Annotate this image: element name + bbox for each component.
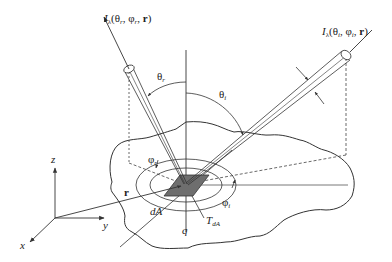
reflected-intensity-label: Iλ(θr, φr, r) <box>103 12 152 26</box>
theta-r-arc <box>148 82 186 96</box>
theta-i-arc <box>186 93 243 135</box>
incident-intensity-label: Iλ(θi, φi, r) <box>321 25 368 39</box>
beam-width-arrow-top <box>296 67 308 80</box>
dA-label: dA <box>150 205 163 217</box>
tda-label: TdA <box>206 214 221 228</box>
radiation-geometry-diagram: Iλ(θr, φr, r) Iλ(θi, φi, r) θr θi φr φi … <box>0 0 392 262</box>
r-vector-label: r <box>124 186 129 198</box>
x-axis-label: x <box>19 239 25 251</box>
theta-i-label: θi <box>219 88 226 102</box>
reflected-beam <box>104 17 187 184</box>
x-axis <box>30 218 55 242</box>
coordinate-axes <box>30 168 104 242</box>
theta-r-label: θr <box>157 70 165 84</box>
surface-patch-dA <box>164 175 209 196</box>
incident-beam <box>186 30 372 185</box>
beam-width-arrow-bottom <box>315 92 324 104</box>
z-axis-label: z <box>50 153 56 165</box>
phi-i-arrow <box>232 180 235 188</box>
phi-r-label: φr <box>148 153 157 167</box>
diagonal-line <box>120 150 232 247</box>
q-label: q <box>182 224 188 236</box>
y-axis-label: y <box>102 219 108 231</box>
diagram-svg: Iλ(θr, φr, r) Iλ(θi, φi, r) θr θi φr φi … <box>0 0 392 262</box>
